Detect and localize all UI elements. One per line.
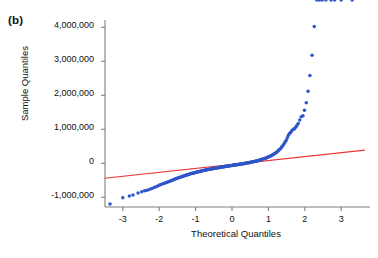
axis-spines	[105, 20, 370, 207]
plot-canvas	[0, 0, 378, 258]
data-points	[108, 0, 354, 206]
axis-ticks	[101, 27, 341, 211]
qq-plot-figure: (b) Sample Quantiles Theoretical Quantil…	[0, 0, 378, 258]
